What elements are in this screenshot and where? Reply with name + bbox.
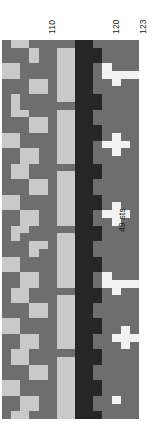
- heatmap-cell: [39, 349, 48, 357]
- heatmap-cell: [102, 326, 111, 334]
- heatmap-cell: [48, 396, 57, 404]
- heatmap-cell: [57, 164, 66, 172]
- heatmap-cell: [112, 63, 121, 71]
- heatmap-cell: [93, 373, 102, 381]
- heatmap-cell: [102, 280, 111, 288]
- heatmap-cell: [48, 303, 57, 311]
- heatmap-cell: [2, 125, 11, 133]
- heatmap-cell: [84, 94, 93, 102]
- heatmap-cell: [2, 148, 11, 156]
- heatmap-cell: [11, 71, 20, 79]
- heatmap-cell: [84, 179, 93, 187]
- heatmap-cell: [48, 125, 57, 133]
- heatmap-cell: [11, 133, 20, 141]
- heatmap-cell: [11, 249, 20, 257]
- heatmap-cell: [121, 164, 130, 172]
- heatmap-cell: [57, 148, 66, 156]
- heatmap-cell: [39, 280, 48, 288]
- heatmap-cell: [57, 125, 66, 133]
- heatmap-cell: [130, 357, 139, 365]
- heatmap-cell: [121, 342, 130, 350]
- heatmap-cell: [39, 411, 48, 419]
- heatmap-cell: [39, 226, 48, 234]
- heatmap-cell: [75, 233, 84, 241]
- heatmap-cell: [121, 110, 130, 118]
- heatmap-cell: [29, 63, 38, 71]
- heatmap-cell: [130, 365, 139, 373]
- heatmap-cell: [84, 233, 93, 241]
- heatmap-cell: [93, 349, 102, 357]
- heatmap-cell: [66, 257, 75, 265]
- heatmap-cell: [39, 202, 48, 210]
- heatmap-cell: [29, 373, 38, 381]
- heatmap-cell: [84, 380, 93, 388]
- heatmap-cell: [57, 241, 66, 249]
- heatmap-cell: [29, 187, 38, 195]
- heatmap-cell: [93, 295, 102, 303]
- heatmap-cell: [66, 48, 75, 56]
- heatmap-cell: [66, 117, 75, 125]
- heatmap-cell: [84, 63, 93, 71]
- heatmap-cell: [112, 264, 121, 272]
- heatmap-cell: [48, 280, 57, 288]
- heatmap-cell: [29, 318, 38, 326]
- heatmap-cell: [102, 249, 111, 257]
- heatmap-cell: [66, 349, 75, 357]
- heatmap-cell: [102, 117, 111, 125]
- heatmap-cell: [130, 288, 139, 296]
- heatmap-cell: [2, 249, 11, 257]
- heatmap-cell: [84, 272, 93, 280]
- heatmap-cell: [93, 280, 102, 288]
- heatmap-cell: [2, 210, 11, 218]
- heatmap-cell: [112, 79, 121, 87]
- heatmap-cell: [66, 86, 75, 94]
- heatmap-cell: [112, 365, 121, 373]
- heatmap-cell: [48, 63, 57, 71]
- heatmap-cell: [121, 195, 130, 203]
- heatmap-cell: [48, 311, 57, 319]
- heatmap-cell: [29, 55, 38, 63]
- heatmap-cell: [66, 318, 75, 326]
- heatmap-cell: [20, 303, 29, 311]
- heatmap-cell: [121, 117, 130, 125]
- heatmap-cell: [102, 218, 111, 226]
- heatmap-cell: [93, 218, 102, 226]
- heatmap-cell: [121, 79, 130, 87]
- heatmap-cell: [84, 125, 93, 133]
- heatmap-cell: [57, 326, 66, 334]
- heatmap-cell: [29, 141, 38, 149]
- heatmap-cell: [93, 318, 102, 326]
- heatmap-cell: [84, 326, 93, 334]
- heatmap-cell: [112, 342, 121, 350]
- heatmap-cell: [84, 349, 93, 357]
- heatmap-cell: [39, 303, 48, 311]
- heatmap-cell: [102, 202, 111, 210]
- heatmap-cell: [75, 318, 84, 326]
- heatmap-cell: [84, 171, 93, 179]
- heatmap-cell: [130, 48, 139, 56]
- heatmap-cell: [57, 249, 66, 257]
- heatmap-cell: [11, 380, 20, 388]
- heatmap-cell: [39, 380, 48, 388]
- heatmap-cell: [130, 349, 139, 357]
- heatmap-cell: [29, 303, 38, 311]
- heatmap-cell: [2, 288, 11, 296]
- heatmap-cell: [66, 156, 75, 164]
- heatmap-cell: [75, 79, 84, 87]
- heatmap-cell: [130, 280, 139, 288]
- heatmap-cell: [93, 404, 102, 412]
- heatmap-cell: [39, 210, 48, 218]
- heatmap-cell: [102, 110, 111, 118]
- heatmap-cell: [93, 272, 102, 280]
- heatmap-cell: [2, 40, 11, 48]
- heatmap-cell: [84, 318, 93, 326]
- heatmap-cell: [57, 388, 66, 396]
- heatmap-cell: [112, 357, 121, 365]
- heatmap-cell: [57, 48, 66, 56]
- heatmap-cell: [11, 226, 20, 234]
- heatmap-cell: [121, 125, 130, 133]
- heatmap-cell: [57, 141, 66, 149]
- heatmap-cell: [48, 295, 57, 303]
- heatmap-cell: [2, 334, 11, 342]
- heatmap-cell: [121, 241, 130, 249]
